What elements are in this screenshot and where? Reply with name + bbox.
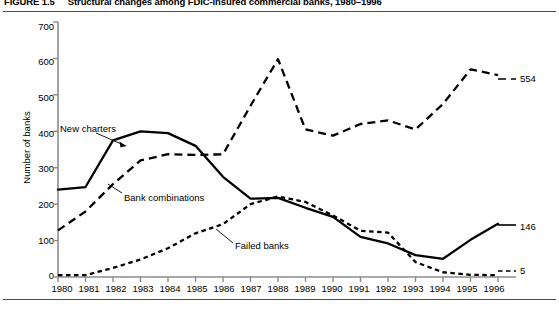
leader-arrow-new-charters — [120, 142, 127, 148]
series-line-new-charters — [58, 131, 498, 258]
chart-svg — [0, 0, 559, 309]
leader-failed-banks — [216, 229, 233, 243]
chart-plot-area: Number of banks 700 600 500 400 300 200 … — [0, 0, 559, 309]
series-line-failed-banks — [58, 196, 498, 275]
end-label-connectors — [498, 79, 516, 271]
figure-container: FIGURE 1.5Structural changes among FDIC-… — [0, 0, 559, 309]
